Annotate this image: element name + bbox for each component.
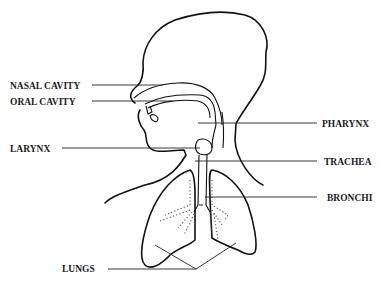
- label-nasal-cavity: NASAL CAVITY: [10, 81, 80, 91]
- tongue-shape: [148, 100, 210, 118]
- face-lower-outline: [105, 110, 186, 203]
- label-larynx: LARYNX: [10, 144, 50, 154]
- nasal-cavity-shape: [134, 83, 222, 125]
- lungs-leader-left: [155, 245, 196, 269]
- bronchi-shape: [194, 205, 210, 212]
- oral-cavity-shape: [145, 95, 216, 125]
- lungs-leader-right: [196, 243, 236, 269]
- right-lung: [210, 170, 257, 254]
- label-trachea: TRACHEA: [324, 157, 372, 167]
- label-oral-cavity: ORAL CAVITY: [10, 97, 76, 107]
- trachea-tube: [198, 155, 207, 205]
- label-bronchi: BRONCHI: [327, 193, 373, 203]
- teeth: [146, 106, 158, 122]
- respiratory-diagram: NASAL CAVITY ORAL CAVITY LARYNX PHARYNX …: [0, 0, 382, 282]
- label-lungs: LUNGS: [62, 264, 95, 274]
- bronchioles-right: [210, 180, 228, 240]
- larynx-shape: [196, 139, 212, 155]
- label-pharynx: PHARYNX: [322, 119, 369, 129]
